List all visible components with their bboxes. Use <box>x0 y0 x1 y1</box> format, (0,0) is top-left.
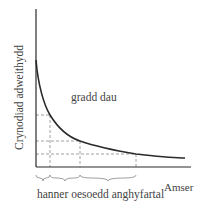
brace-3 <box>80 175 136 181</box>
curve-label: gradd dau <box>71 92 117 104</box>
half-life-label: hanner oesoedd anghyfartal <box>37 189 164 201</box>
second-order-plot <box>0 0 203 209</box>
x-axis-label: Amser <box>164 182 193 193</box>
brace-1 <box>36 175 50 181</box>
half-life-guides <box>36 115 136 167</box>
brace-2 <box>50 175 80 181</box>
decay-curve <box>36 60 185 158</box>
y-axis-label: Crynodiad adweithydd <box>14 45 26 150</box>
half-life-braces <box>36 175 136 181</box>
diagram: Crynodiad adweithydd gradd dau Amser han… <box>0 0 203 209</box>
